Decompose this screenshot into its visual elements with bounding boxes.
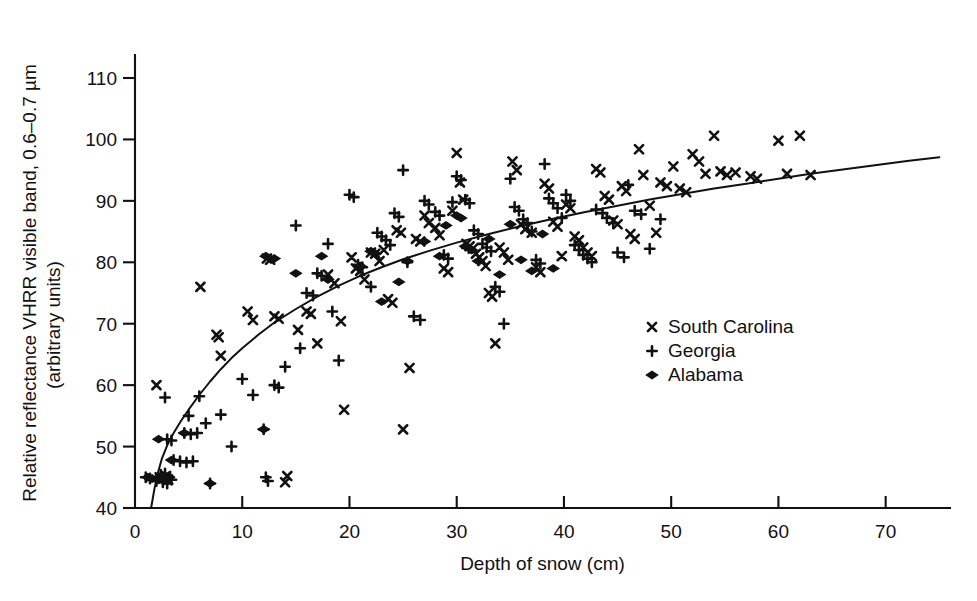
data-point [506,174,515,183]
legend-marker-diamond [646,371,657,378]
data-point [448,197,457,206]
data-point [204,480,215,487]
x-axis-title: Depth of snow (cm) [460,553,625,574]
data-point [388,299,396,307]
y-axis-title-line1: Relative reflectance VHRR visible band, … [19,64,40,502]
data-point [196,283,204,291]
data-point [652,229,660,237]
data-point [639,171,647,179]
data-point [540,159,549,168]
y-tick-label: 70 [96,314,117,335]
x-tick-label: 30 [446,521,467,542]
data-point [316,252,327,259]
legend-label: Alabama [668,364,743,385]
data-point [188,457,197,466]
data-point [619,253,628,262]
legend: South CarolinaGeorgiaAlabama [646,316,794,385]
data-point [192,428,201,437]
legend-item-alabama: Alabama [646,364,743,385]
figure-container: 405060708090100110010203040506070 South … [0,0,977,601]
data-point [348,253,356,261]
data-point [238,374,247,383]
data-point [160,393,169,402]
data-point [280,362,289,371]
data-point [701,170,709,178]
data-point [295,344,304,353]
data-point [491,339,499,347]
data-point [227,442,236,451]
data-point [249,316,257,324]
data-point [243,307,251,315]
axes-group [135,55,950,508]
y-tick-label: 40 [96,498,117,519]
data-point [483,235,494,242]
data-point [380,246,388,254]
x-tick-label: 40 [553,521,574,542]
data-point [179,429,190,436]
data-point [596,169,604,177]
data-point [337,317,345,325]
data-point [334,356,343,365]
x-tick-label: 20 [339,521,360,542]
data-point [152,381,160,389]
x-tick-label: 70 [875,521,896,542]
data-point [360,275,368,283]
x-tick-label: 10 [232,521,253,542]
data-point [796,132,804,140]
data-point [499,319,508,328]
data-point [537,230,548,237]
data-point [405,364,413,372]
data-point [376,298,387,305]
data-point [398,165,407,174]
data-point [201,419,210,428]
data-point [613,248,622,257]
legend-marker-+ [647,346,656,355]
data-point [646,202,654,210]
data-points-group [141,132,815,488]
data-point [488,293,496,301]
fit-curve-line [151,157,939,508]
series-south-carolina [152,132,814,487]
data-point [631,235,639,243]
data-point [731,169,739,177]
data-point [340,406,348,414]
legend-label: Georgia [668,340,736,361]
data-point [444,268,452,276]
data-point [545,184,553,192]
data-point [669,162,677,170]
data-point [453,149,461,157]
axis-spines [135,55,950,508]
y-tick-label: 50 [96,437,117,458]
data-point [291,221,300,230]
data-point [440,222,451,229]
legend-label: South Carolina [668,316,794,337]
y-tick-label: 110 [87,68,117,89]
data-point [515,256,526,263]
data-point [558,252,566,260]
fit-curve [151,157,939,508]
x-tick-label: 60 [768,521,789,542]
legend-item-south-carolina: South Carolina [648,316,794,337]
data-point [635,145,643,153]
data-point [399,425,407,433]
y-tick-label: 60 [96,375,117,396]
x-tick-label: 0 [130,521,141,542]
series-alabama [142,212,559,487]
y-tick-label: 80 [96,252,117,273]
data-point [774,137,782,145]
data-point [553,223,561,231]
data-point [494,271,505,278]
y-tick-label: 90 [96,191,117,212]
data-point [557,213,566,222]
data-point [393,278,404,285]
data-point [508,157,516,165]
data-point [513,166,521,174]
series-georgia [141,159,665,488]
data-point [290,270,301,277]
x-tick-label: 50 [661,521,682,542]
data-point [294,326,302,334]
y-axis-title-line2: (arbitrary units) [43,261,64,389]
data-point [605,196,613,204]
data-point [656,215,665,224]
legend-item-georgia: Georgia [647,340,736,361]
